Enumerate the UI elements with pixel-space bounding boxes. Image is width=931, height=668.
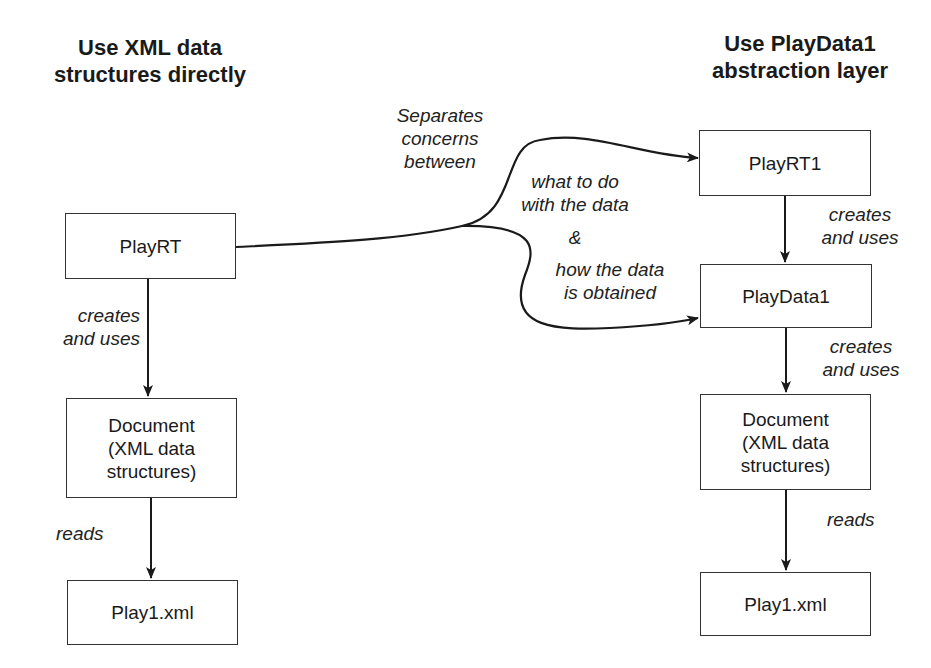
box-play1-right: Play1.xml <box>700 572 871 636</box>
label-reads-left: reads <box>56 522 116 545</box>
box-playrt-label: PlayRT <box>120 235 182 258</box>
right-heading: Use PlayData1 abstraction layer <box>680 30 920 84</box>
box-playrt: PlayRT <box>65 213 236 279</box>
label-separates-concerns: Separates concerns between <box>370 104 510 173</box>
box-playrt1-label: PlayRT1 <box>749 152 822 175</box>
box-playdata1-label: PlayData1 <box>742 285 830 308</box>
box-play1-left-label: Play1.xml <box>111 601 193 624</box>
box-playrt1: PlayRT1 <box>699 130 871 196</box>
label-creates-and-uses-right-1: creates and uses <box>810 203 910 249</box>
box-play1-left: Play1.xml <box>67 580 238 645</box>
box-document-left-label: Document (XML data structures) <box>107 414 197 483</box>
box-document-right: Document (XML data structures) <box>700 394 871 490</box>
box-document-right-label: Document (XML data structures) <box>741 408 831 477</box>
label-ampersand: & <box>565 226 585 249</box>
label-how-obtained: how the data is obtained <box>530 258 690 304</box>
left-heading: Use XML data structures directly <box>40 34 260 88</box>
box-playdata1: PlayData1 <box>700 264 872 328</box>
box-play1-right-label: Play1.xml <box>744 593 826 616</box>
label-what-to-do: what to do with the data <box>500 170 650 216</box>
label-reads-right: reads <box>827 508 887 531</box>
label-creates-and-uses-left: creates and uses <box>40 304 140 350</box>
label-creates-and-uses-right-2: creates and uses <box>811 335 911 381</box>
box-document-left: Document (XML data structures) <box>66 398 237 498</box>
